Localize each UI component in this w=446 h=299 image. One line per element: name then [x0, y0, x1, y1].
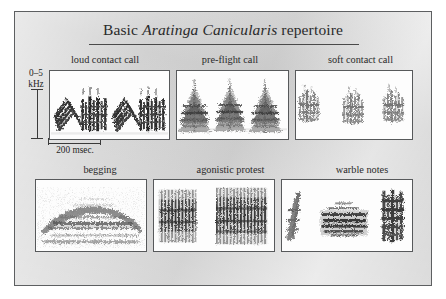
title-underline	[89, 44, 359, 45]
panel-label-loud-contact-call: loud contact call	[35, 54, 175, 65]
title-species: Aratinga Canicularis	[142, 21, 277, 38]
title-prefix: Basic	[103, 21, 142, 38]
spectrogram-loud-contact-call	[50, 71, 169, 139]
figure-root: Basic Aratinga Canicularis repertoire lo…	[0, 0, 446, 299]
panel-label-soft-contact-call: soft contact call	[293, 54, 428, 65]
frequency-axis-label: 0–5 kHz	[19, 68, 53, 89]
frequency-scale-bar-bottom-tick	[31, 138, 43, 139]
frequency-scale-bar-top-tick	[31, 89, 43, 90]
panel-label-begging: begging	[35, 164, 165, 175]
panel-label-pre-flight-call: pre-flight call	[165, 54, 295, 65]
title-suffix: repertoire	[277, 21, 343, 38]
spectrogram-pre-flight-call	[177, 71, 288, 139]
spectrogram-panel-agonistic-protest	[153, 179, 275, 252]
panel-label-warble-notes: warble notes	[297, 164, 427, 175]
spectrogram-panel-begging	[35, 179, 147, 252]
freq-unit-text: kHz	[28, 79, 44, 89]
spectrogram-soft-contact-call	[296, 71, 412, 139]
spectrogram-warble-notes	[282, 180, 412, 251]
frequency-scale-bar	[37, 89, 38, 139]
spectrogram-begging	[36, 180, 146, 251]
time-scale-label: 200 msec.	[39, 145, 111, 155]
spectrogram-panel-warble-notes	[281, 179, 413, 252]
figure-plate: Basic Aratinga Canicularis repertoire lo…	[14, 11, 432, 286]
spectrogram-panel-soft-contact-call	[295, 70, 413, 140]
spectrogram-agonistic-protest	[154, 180, 274, 251]
spectrogram-panel-pre-flight-call	[176, 70, 289, 140]
freq-range-text: 0–5	[29, 68, 43, 78]
spectrogram-panel-loud-contact-call	[49, 70, 170, 140]
panel-label-agonistic-protest: agonistic protest	[163, 164, 298, 175]
figure-title: Basic Aratinga Canicularis repertoire	[15, 21, 431, 39]
